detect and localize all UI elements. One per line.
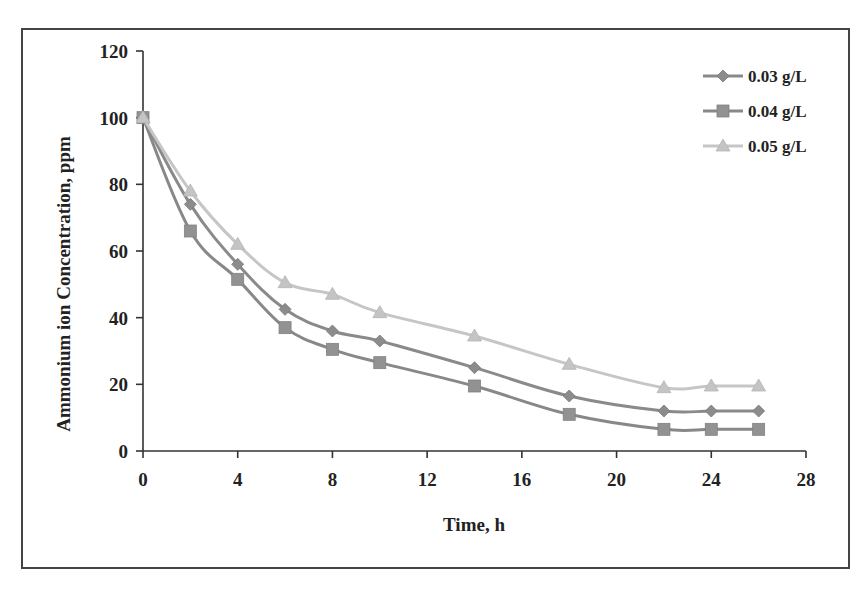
x-tick-label: 24 [702,469,722,490]
square-marker-icon [658,423,670,435]
square-marker-icon [705,423,717,435]
x-tick-label: 0 [138,469,148,490]
y-axis-title: Ammonium ion Concentration, ppm [53,136,74,432]
diamond-marker-icon [705,405,717,417]
line-chart: 0204060801001200481216202428 Ammonium io… [0,0,868,593]
y-tick-label: 80 [109,174,128,195]
diamond-marker-icon [469,362,481,374]
square-marker-icon [326,343,338,355]
diamond-legend-icon [717,70,729,82]
y-tick-label: 120 [100,41,129,62]
square-marker-icon [184,225,196,237]
legend: 0.03 g/L0.04 g/L0.05 g/L [703,67,807,156]
series-diamond [137,112,765,417]
legend-item: 0.03 g/L [703,67,807,86]
series-triangle [136,111,766,393]
y-tick-label: 0 [119,441,129,462]
legend-label: 0.03 g/L [748,67,807,86]
series-line [143,118,759,389]
square-marker-icon [374,357,386,369]
x-tick-label: 4 [233,469,243,490]
legend-item: 0.05 g/L [703,137,807,156]
x-tick-label: 20 [607,469,626,490]
square-marker-icon [232,273,244,285]
x-tick-label: 16 [512,469,531,490]
diamond-marker-icon [326,325,338,337]
square-marker-icon [469,380,481,392]
legend-item: 0.04 g/L [703,102,807,121]
diamond-marker-icon [563,390,575,402]
square-marker-icon [563,408,575,420]
legend-label: 0.05 g/L [748,137,807,156]
legend-label: 0.04 g/L [748,102,807,121]
x-tick-label: 12 [418,469,437,490]
plot-area: 0204060801001200481216202428 [100,41,816,490]
triangle-marker-icon [278,276,292,288]
y-tick-label: 20 [109,374,128,395]
x-tick-label: 8 [328,469,338,490]
series-square [137,112,765,436]
diamond-marker-icon [374,335,386,347]
y-tick-label: 40 [109,308,128,329]
y-tick-label: 100 [100,108,129,129]
y-tick-label: 60 [109,241,128,262]
square-marker-icon [279,322,291,334]
square-legend-icon [717,105,729,117]
x-tick-label: 28 [797,469,816,490]
diamond-marker-icon [658,405,670,417]
diamond-marker-icon [753,405,765,417]
x-axis-title: Time, h [443,514,505,535]
square-marker-icon [753,423,765,435]
